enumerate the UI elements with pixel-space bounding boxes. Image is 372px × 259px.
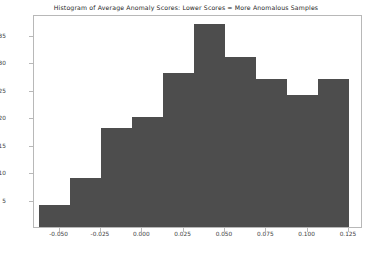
histogram-bar [225,57,256,227]
histogram-bar [163,73,194,227]
histogram-bar [101,128,132,227]
plot-axes [33,15,362,228]
chart-title: Histogram of Average Anomaly Scores: Low… [0,4,372,11]
y-tick-mark [29,201,33,202]
y-tick-mark [29,36,33,37]
x-tick-mark [100,228,101,232]
histogram-bar [287,95,318,227]
x-tick-mark [183,228,184,232]
y-tick-label: 25 [0,88,6,94]
x-tick-mark [224,228,225,232]
x-tick-mark [59,228,60,232]
x-tick-mark [307,228,308,232]
histogram-bar [318,79,349,227]
y-tick-label: 15 [0,143,6,149]
histogram-bar [194,24,225,227]
x-tick-mark [265,228,266,232]
y-tick-label: 20 [0,115,6,121]
histogram-bar [256,79,287,227]
y-tick-label: 35 [0,33,6,39]
bars-container [34,16,361,227]
histogram-bar [70,178,101,227]
y-tick-label: 5 [0,198,6,204]
y-tick-mark [29,146,33,147]
histogram-figure: Histogram of Average Anomaly Scores: Low… [0,0,372,259]
x-tick-mark [141,228,142,232]
histogram-bar [39,205,70,227]
histogram-bar [132,117,163,227]
y-tick-label: 10 [0,170,6,176]
y-tick-mark [29,91,33,92]
y-tick-label: 30 [0,60,6,66]
y-tick-mark [29,173,33,174]
y-tick-mark [29,63,33,64]
y-tick-mark [29,118,33,119]
x-tick-mark [348,228,349,232]
